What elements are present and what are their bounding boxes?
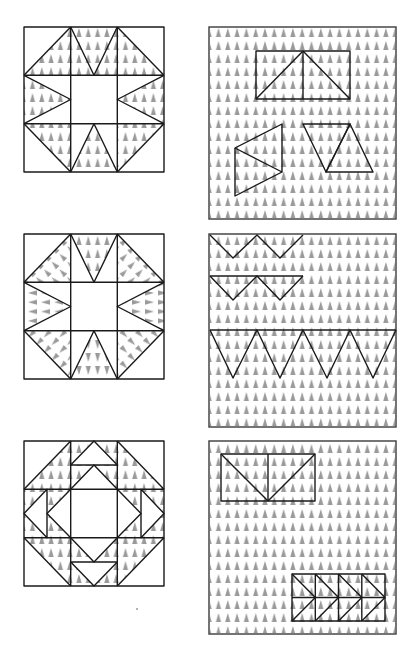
radial-star-block [24, 234, 164, 379]
cutting-layout-3 [209, 441, 396, 634]
sawtooth-star-block [24, 27, 164, 172]
cutting-layout-2 [209, 234, 396, 427]
cutting-layout-1 [209, 27, 396, 219]
quilt-diagram-canvas [0, 0, 417, 659]
square-in-square-block [24, 441, 164, 586]
stray-dot [136, 608, 138, 610]
